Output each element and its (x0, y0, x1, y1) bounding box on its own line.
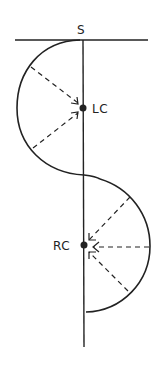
label-rc: RC (53, 239, 70, 253)
right-center-point (81, 242, 88, 249)
radius-line-lower-1 (89, 197, 130, 240)
radius-line-upper-2 (33, 113, 78, 148)
label-s: S (77, 23, 85, 37)
s-curve-diagram: S LC RC (0, 0, 158, 365)
left-center-point (80, 105, 87, 112)
left-curve-arc (17, 40, 100, 179)
radius-line-lower-3 (89, 252, 128, 291)
vertical-axis (83, 40, 84, 347)
arrowhead-icon (93, 242, 99, 252)
label-lc: LC (92, 102, 108, 116)
radius-line-upper-1 (31, 67, 78, 103)
